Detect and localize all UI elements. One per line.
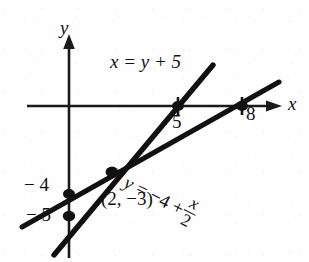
tick-label-y-minus5: − 5 [26, 205, 51, 224]
tick-label-x-8: 8 [246, 104, 256, 123]
x-axis-arrowhead [266, 100, 282, 111]
point-dot-x-intercept-steep [172, 101, 184, 111]
point-dot-y-intercept-steep [63, 211, 75, 221]
graph-figure: y x 5 8 − 4 − 5 x = y + 5 y = −4 +x2 (2,… [0, 0, 309, 262]
point-dot-y-intercept-shallow [63, 189, 75, 199]
point-label-intersection: (2, −3) [101, 189, 153, 208]
tick-label-x-5: 5 [172, 112, 182, 131]
y-axis-label: y [60, 18, 68, 37]
point-dot-intersection [106, 167, 119, 178]
tick-label-y-minus4: − 4 [24, 175, 49, 194]
equation-label-steep: x = y + 5 [110, 52, 181, 71]
y-axis [63, 34, 75, 258]
x-axis-label: x [288, 94, 296, 113]
